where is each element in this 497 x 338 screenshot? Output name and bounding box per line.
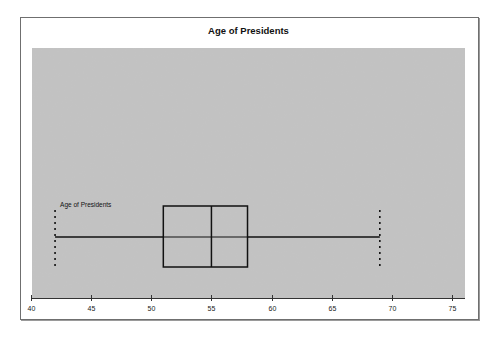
x-tick-label: 60 (269, 305, 277, 312)
plot-area (32, 48, 465, 298)
x-tick-label: 45 (88, 305, 96, 312)
boxplot-chart: 4045505560657075 Age of Presidents (0, 0, 497, 338)
x-tick-label: 50 (148, 305, 156, 312)
x-tick-label: 55 (208, 305, 216, 312)
x-tick-label: 65 (329, 305, 337, 312)
x-tick-label: 75 (449, 305, 457, 312)
series-label: Age of Presidents (60, 201, 112, 209)
x-tick-label: 70 (389, 305, 397, 312)
x-tick-label: 40 (28, 305, 36, 312)
